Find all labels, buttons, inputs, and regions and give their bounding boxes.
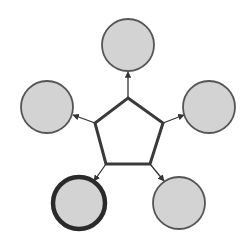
node-bottom-left-highlighted [53, 177, 105, 229]
node-right [183, 81, 235, 133]
node-top [102, 19, 154, 71]
arrow-bottom-left [94, 164, 106, 181]
pentagon-hub [95, 98, 163, 164]
node-bottom-right [153, 177, 205, 229]
arrow-bottom-right [150, 164, 164, 181]
node-left [21, 81, 73, 133]
arrow-right [163, 115, 184, 123]
hub-spoke-diagram [0, 0, 242, 247]
arrow-left [73, 115, 95, 123]
